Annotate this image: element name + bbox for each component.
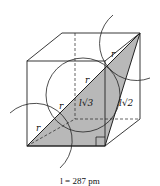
caption: l = 287 pm <box>0 176 160 186</box>
label-face-diagonal: l√2 <box>119 99 133 108</box>
label-body-diagonal: l√3 <box>79 99 93 108</box>
label-r-1: r <box>36 124 40 133</box>
label-r-4: r <box>111 50 115 59</box>
label-r-2: r <box>59 102 63 111</box>
cube-diagram <box>0 0 160 186</box>
shaded-triangle <box>27 33 140 146</box>
label-r-3: r <box>85 76 89 85</box>
